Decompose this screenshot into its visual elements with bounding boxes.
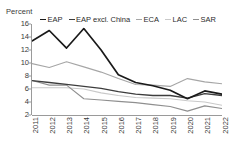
- y-axis-tick-mark: [28, 115, 31, 116]
- x-axis-tick-label: 2011: [32, 117, 40, 133]
- y-axis-tick-mark: [28, 50, 31, 51]
- x-axis-tick-label: 2015: [101, 117, 109, 134]
- x-axis-tick-label: 2021: [204, 117, 212, 134]
- x-axis-tick-label: 2018: [153, 117, 161, 134]
- y-axis-tick-mark: [28, 37, 31, 38]
- x-axis-tick-label: 2013: [66, 117, 74, 134]
- legend-swatch-icon: [165, 19, 171, 20]
- x-axis-tick-label: 2019: [170, 117, 178, 134]
- x-axis-tick-label: 2014: [84, 117, 92, 134]
- legend-item-label: LAC: [173, 16, 188, 24]
- legend-item-label: SAR: [201, 16, 216, 24]
- x-axis-tick-label: 2012: [49, 117, 57, 134]
- legend-item-eap[interactable]: EAP: [40, 16, 63, 24]
- legend-swatch-icon: [193, 19, 199, 20]
- x-axis-line: [32, 115, 222, 116]
- x-axis-labels: 2011201220132014201520162017201820192020…: [32, 117, 222, 153]
- chart-legend: EAPEAP excl. ChinaECALACSAR: [40, 16, 216, 24]
- series-line-eca: [32, 62, 222, 87]
- y-axis-title: Percent: [6, 7, 33, 16]
- y-axis-labels: 161412108642: [0, 24, 29, 115]
- line-chart: Percent EAPEAP excl. ChinaECALACSAR 1614…: [0, 0, 230, 155]
- legend-swatch-icon: [136, 19, 142, 20]
- legend-item-eap-excl-china[interactable]: EAP excl. China: [69, 16, 131, 24]
- x-axis-tick-label: 2020: [187, 117, 195, 134]
- legend-item-label: EAP excl. China: [76, 16, 130, 24]
- y-axis-tick-mark: [28, 102, 31, 103]
- legend-swatch-icon: [69, 19, 75, 20]
- legend-item-eca[interactable]: ECA: [136, 16, 159, 24]
- y-axis-tick-mark: [28, 76, 31, 77]
- y-axis-tick-mark: [28, 89, 31, 90]
- legend-item-label: EAP: [48, 16, 63, 24]
- legend-swatch-icon: [40, 19, 46, 20]
- plot-area: [32, 24, 222, 115]
- series-canvas: [32, 24, 222, 115]
- x-axis-tick-label: 2017: [135, 117, 143, 134]
- y-axis-tick-mark: [28, 63, 31, 64]
- legend-item-lac[interactable]: LAC: [165, 16, 187, 24]
- legend-item-label: ECA: [144, 16, 159, 24]
- y-axis-tick-mark: [28, 24, 31, 25]
- x-axis-tick-label: 2016: [118, 117, 126, 134]
- x-axis-tick-label: 2022: [222, 117, 230, 134]
- legend-item-sar[interactable]: SAR: [193, 16, 216, 24]
